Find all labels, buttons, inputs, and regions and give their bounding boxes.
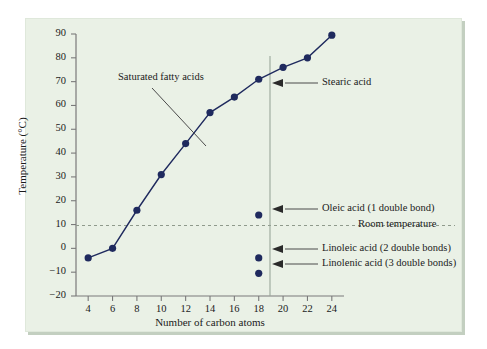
saturated-curve bbox=[88, 35, 332, 258]
oleic-arrowhead bbox=[272, 205, 283, 213]
annotation-leaders bbox=[152, 83, 318, 264]
y-axis-title: Temperature (°C) bbox=[16, 96, 28, 216]
data-point-saturated bbox=[206, 109, 213, 116]
x-axis-ticks bbox=[88, 296, 332, 301]
y-tick-label: −10 bbox=[28, 265, 66, 276]
y-axis-ticks bbox=[71, 34, 76, 296]
x-axis-title: Number of carbon atoms bbox=[75, 316, 345, 328]
annotation-stearic-acid: Stearic acid bbox=[322, 76, 371, 87]
annotation-oleic-acid: Oleic acid (1 double bond) bbox=[322, 202, 435, 213]
data-point-saturated bbox=[158, 171, 165, 178]
data-point-saturated bbox=[255, 76, 262, 83]
y-tick-label: 60 bbox=[28, 98, 66, 109]
annotation-linolenic-acid: Linolenic acid (3 double bonds) bbox=[322, 257, 456, 268]
data-point-saturated bbox=[279, 64, 286, 71]
data-point-saturated bbox=[182, 140, 189, 147]
x-tick-label: 24 bbox=[317, 303, 347, 314]
linoleic-arrowhead bbox=[272, 245, 283, 253]
annotation-room-temperature: Room temperature bbox=[358, 218, 436, 229]
data-point-saturated bbox=[109, 245, 116, 252]
y-tick-label: 50 bbox=[28, 122, 66, 133]
annotation-linoleic-acid: Linoleic acid (2 double bonds) bbox=[322, 242, 451, 253]
y-tick-label: 40 bbox=[28, 146, 66, 157]
data-point-unsaturated bbox=[255, 211, 262, 218]
y-tick-label: 80 bbox=[28, 51, 66, 62]
y-tick-label: 30 bbox=[28, 170, 66, 181]
annotation-arrowheads bbox=[272, 79, 283, 268]
figure-root: Temperature (°C) Number of carbon atoms … bbox=[0, 0, 487, 349]
data-point-saturated bbox=[304, 54, 311, 61]
data-point-unsaturated bbox=[255, 254, 262, 261]
saturated-data-points bbox=[85, 32, 336, 262]
data-point-saturated bbox=[328, 32, 335, 39]
y-tick-label: 10 bbox=[28, 218, 66, 229]
y-tick-label: −20 bbox=[28, 289, 66, 300]
annotation-saturated-fatty-acids: Saturated fatty acids bbox=[118, 71, 204, 82]
linolenic-arrowhead bbox=[272, 260, 283, 268]
y-tick-label: 20 bbox=[28, 194, 66, 205]
data-point-saturated bbox=[85, 254, 92, 261]
saturated-leader-line bbox=[152, 88, 206, 146]
data-point-unsaturated bbox=[255, 270, 262, 277]
y-tick-label: 0 bbox=[28, 241, 66, 252]
data-point-saturated bbox=[133, 207, 140, 214]
y-tick-label: 70 bbox=[28, 75, 66, 86]
chart-svg bbox=[0, 0, 487, 349]
axis-spines bbox=[76, 34, 344, 296]
unsaturated-data-points bbox=[255, 211, 262, 277]
data-point-saturated bbox=[231, 94, 238, 101]
stearic-arrowhead bbox=[272, 79, 283, 87]
y-tick-label: 90 bbox=[28, 27, 66, 38]
